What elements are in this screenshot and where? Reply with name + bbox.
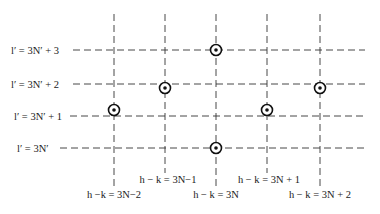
col-label-m2: h −k = 3N−2 bbox=[87, 189, 141, 200]
point-dot bbox=[265, 108, 269, 112]
point-dot bbox=[214, 146, 218, 150]
col-label-m1: h − k = 3N−1 bbox=[140, 174, 197, 185]
row-label-2: l′ = 3N′ + 2 bbox=[11, 79, 59, 90]
lattice-point bbox=[160, 83, 171, 94]
points-layer bbox=[109, 45, 326, 154]
row-label-0: l′ = 3N′ bbox=[17, 143, 49, 154]
point-dot bbox=[214, 48, 218, 52]
lattice-point bbox=[315, 83, 326, 94]
col-label-p2: h − k = 3N + 2 bbox=[289, 189, 351, 200]
lattice-point bbox=[211, 143, 222, 154]
lattice-point bbox=[262, 105, 273, 116]
col-label-0: h − k = 3N bbox=[193, 189, 239, 200]
col-label-p1: h − k = 3N + 1 bbox=[238, 174, 300, 185]
point-dot bbox=[112, 108, 116, 112]
row-label-1: l′ = 3N′ + 1 bbox=[14, 111, 62, 122]
lattice-point bbox=[211, 45, 222, 56]
point-dot bbox=[318, 86, 322, 90]
lattice-point bbox=[109, 105, 120, 116]
point-dot bbox=[163, 86, 167, 90]
row-label-3: l′ = 3N′ + 3 bbox=[11, 45, 59, 56]
reflection-lattice-diagram: l′ = 3N′ + 3 l′ = 3N′ + 2 l′ = 3N′ + 1 l… bbox=[0, 0, 380, 214]
